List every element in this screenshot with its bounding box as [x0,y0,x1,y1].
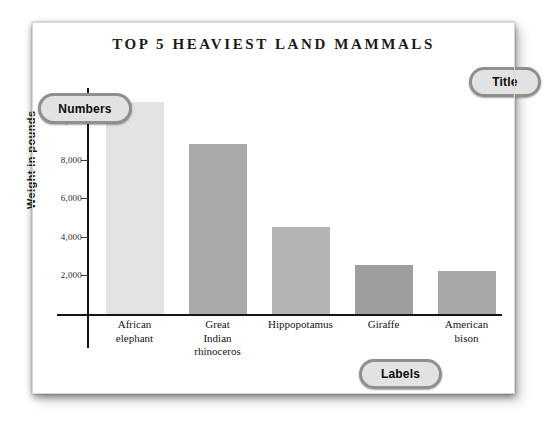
bar [438,271,496,314]
x-axis-label-line: bison [425,332,508,346]
x-axis-label: Giraffe [342,318,425,332]
callout-numbers-text: Numbers [58,102,111,116]
x-axis-label-line: Hippopotamus [259,318,342,332]
x-axis-label: GreatIndianrhinoceros [176,318,259,359]
callout-labels: Labels [359,359,442,389]
x-axis-label: Africanelephant [93,318,176,345]
y-axis-tick [81,198,88,199]
bar [106,102,164,314]
y-axis-tick [81,160,88,161]
x-axis-label-line: African [93,318,176,332]
y-axis-title: Weight in pounds [25,111,37,209]
plot-area: 2,0004,0006,0008,00010,000 Africanelepha… [87,92,502,314]
x-axis-label-line: elephant [93,332,176,346]
y-axis-tick-label: 2,000 [61,270,82,280]
y-axis-tick-label: 4,000 [61,232,82,242]
x-axis-label: Hippopotamus [259,318,342,332]
x-axis-line [57,314,502,316]
y-axis-tick [81,275,88,276]
y-axis-line [87,88,89,348]
x-axis-label-line: rhinoceros [176,345,259,359]
x-axis-label-line: Giraffe [342,318,425,332]
callout-title: Title [469,67,541,97]
chart-page-card: TOP 5 HEAVIEST LAND MAMMALS Weight in po… [32,22,515,394]
y-axis-tick-label: 8,000 [61,155,82,165]
x-axis-label-line: Great [176,318,259,332]
x-axis-label-line: Indian [176,332,259,346]
callout-title-text: Title [492,75,517,89]
x-axis-label: Americanbison [425,318,508,345]
callout-labels-text: Labels [381,367,420,381]
callout-numbers: Numbers [38,93,132,124]
bar [272,227,330,314]
bar [189,144,247,314]
y-axis-tick [81,237,88,238]
chart-title: TOP 5 HEAVIEST LAND MAMMALS [32,36,515,53]
x-axis-label-line: American [425,318,508,332]
bar [355,265,413,314]
y-axis-tick-label: 6,000 [61,193,82,203]
